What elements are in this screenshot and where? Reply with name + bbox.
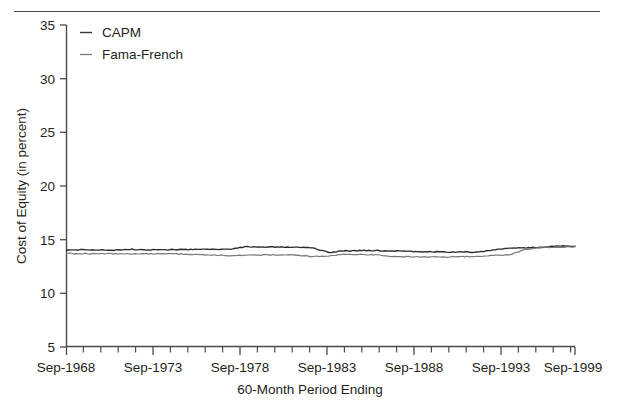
series-line-fama-french [67, 247, 576, 258]
legend-label: CAPM [102, 25, 141, 40]
x-tick-label: Sep-1978 [211, 360, 270, 375]
x-tick-label: Sep-1983 [298, 360, 357, 375]
y-axis-title: Cost of Equity (in percent) [14, 108, 29, 264]
legend-item-capm[interactable]: CAPM [80, 25, 141, 40]
x-tick-label: Sep-1993 [472, 360, 531, 375]
x-tick-label: Sep-1973 [124, 360, 183, 375]
x-tick-label: Sep-1999 [544, 360, 603, 375]
x-tick-label: Sep-1988 [385, 360, 444, 375]
legend-item-fama-french[interactable]: Fama-French [80, 47, 183, 62]
y-tick-label: 15 [40, 233, 55, 248]
y-tick-label: 25 [40, 125, 55, 140]
y-tick-label: 30 [40, 72, 55, 87]
figure-root: 35 30 25 20 15 10 5 Cost of Equity (in p… [0, 0, 617, 412]
y-tick-label: 20 [40, 179, 55, 194]
y-axis-tick-labels: 35 30 25 20 15 10 5 [40, 18, 55, 355]
series-line-capm [67, 246, 576, 253]
x-axis-major-ticks [67, 347, 576, 355]
x-axis-tick-labels: Sep-1968 Sep-1973 Sep-1978 Sep-1983 Sep-… [37, 360, 603, 375]
x-tick-label: Sep-1968 [37, 360, 96, 375]
legend: CAPM Fama-French [80, 25, 183, 62]
line-chart: 35 30 25 20 15 10 5 Cost of Equity (in p… [0, 0, 617, 412]
y-axis-ticks [60, 25, 67, 347]
x-axis-title: 60-Month Period Ending [237, 382, 383, 397]
legend-label: Fama-French [102, 47, 183, 62]
y-tick-label: 5 [47, 340, 55, 355]
series-layer [67, 246, 576, 258]
y-tick-label: 10 [40, 286, 55, 301]
y-tick-label: 35 [40, 18, 55, 33]
